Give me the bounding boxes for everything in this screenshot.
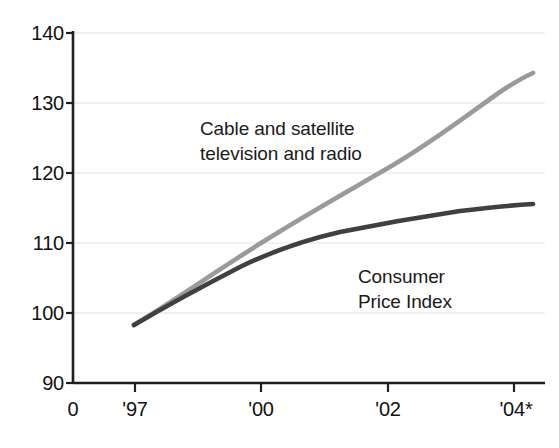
y-tick-label-90: 90 bbox=[0, 372, 64, 395]
x-tick-label-97: '97 bbox=[100, 398, 170, 421]
y-tick-label-100: 100 bbox=[0, 302, 64, 325]
y-tick-label-130: 130 bbox=[0, 92, 64, 115]
y-axis bbox=[66, 31, 73, 384]
x-axis-origin-label: 0 bbox=[38, 398, 108, 421]
series-line-cpi bbox=[134, 204, 533, 325]
line-chart-plot bbox=[0, 0, 559, 448]
series-line-cable-satellite bbox=[134, 73, 533, 325]
gridlines bbox=[73, 33, 545, 313]
x-axis bbox=[73, 383, 545, 392]
series-label-consumer-price-index: Consumer Price Index bbox=[358, 264, 452, 314]
y-tick-label-110: 110 bbox=[0, 232, 64, 255]
y-tick-label-140: 140 bbox=[0, 22, 64, 45]
y-tick-label-120: 120 bbox=[0, 162, 64, 185]
x-tick-label-02: '02 bbox=[353, 398, 423, 421]
x-tick-label-04: '04* bbox=[481, 398, 551, 421]
chart-container: 140 130 120 110 100 90 0 '97 '00 '02 '04… bbox=[0, 0, 559, 448]
x-tick-label-00: '00 bbox=[226, 398, 296, 421]
series-label-cable-satellite: Cable and satellite television and radio bbox=[200, 116, 362, 166]
